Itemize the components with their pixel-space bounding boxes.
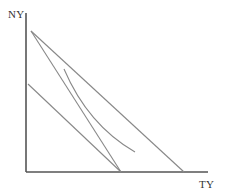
lower-parallel-line	[28, 84, 121, 172]
economic-diagram: NY TY	[0, 0, 225, 193]
x-axis-label: TY	[199, 179, 214, 190]
transformation-curve	[64, 69, 135, 152]
diagram-canvas	[0, 0, 225, 193]
y-axis-label: NY	[8, 9, 24, 20]
